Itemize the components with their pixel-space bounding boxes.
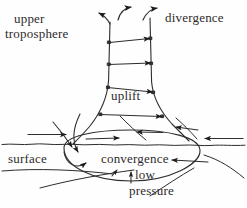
label-low: low bbox=[135, 168, 155, 182]
label-pressure: pressure bbox=[129, 184, 174, 198]
label-troposphere: troposphere bbox=[5, 27, 69, 41]
divergence-arrows bbox=[99, 7, 157, 24]
updraft-column bbox=[73, 18, 189, 144]
label-surface: surface bbox=[8, 152, 47, 166]
label-uplift: uplift bbox=[111, 89, 140, 103]
label-upper: upper bbox=[14, 12, 45, 26]
weather-diagram: upper troposphere divergence uplift surf… bbox=[0, 0, 247, 208]
label-divergence: divergence bbox=[165, 11, 224, 25]
surface-line bbox=[2, 144, 245, 146]
label-convergence: convergence bbox=[101, 152, 169, 166]
